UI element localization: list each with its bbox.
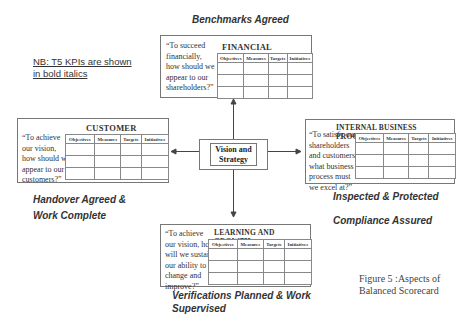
caption-line-2: Balanced Scorecard: [359, 285, 440, 297]
financial-title: FINANCIAL: [222, 42, 272, 52]
caption-line-1: Figure 5 :Aspects of: [359, 273, 440, 285]
note-line-1: NB: T5 KPIs are shown: [33, 56, 132, 68]
customer-title: CUSTOMER: [86, 123, 137, 133]
customer-question: “To achieveour vision,how should weappea…: [22, 133, 70, 186]
arrow-left-icon: [171, 149, 176, 154]
label-compliance: Compliance Assured: [333, 215, 432, 226]
label-benchmarks: Benchmarks Agreed: [192, 14, 289, 25]
arrow-up-icon: [231, 99, 236, 104]
financial-table: ObjectivesMeasuresTargetsInitiatives: [217, 53, 313, 99]
vision-box: Vision and Strategy: [210, 143, 257, 166]
customer-table: ObjectivesMeasuresTargetsInitiatives: [65, 134, 169, 180]
label-handover: Handover Agreed &: [33, 194, 126, 205]
arrow-down-icon: [231, 212, 236, 217]
learning-panel: “To achieveour vision, howwill we sustai…: [160, 224, 311, 287]
internal-panel: “To satisfy ourshareholdersand customers…: [305, 119, 455, 184]
note-line-2: in bold italics: [33, 68, 132, 80]
financial-question: “To succeedfinancially,how should weappe…: [166, 41, 214, 94]
learning-table: ObjectivesMeasuresTargetsInitiatives: [208, 239, 312, 285]
financial-panel: “To succeedfinancially,how should weappe…: [160, 35, 312, 98]
arrow-right-icon: [296, 149, 301, 154]
figure-caption: Figure 5 :Aspects of Balanced Scorecard: [359, 273, 440, 297]
vision-line-2: Strategy: [211, 155, 256, 165]
internal-table: ObjectivesMeasuresTargetsInitiatives: [355, 133, 456, 179]
label-work-complete: Work Complete: [33, 210, 106, 221]
vision-line-1: Vision and: [211, 145, 256, 155]
customer-panel: “To achieveour vision,how should weappea…: [17, 118, 169, 183]
note: NB: T5 KPIs are shown in bold italics: [33, 56, 132, 80]
label-supervised: Supervised: [172, 303, 226, 314]
